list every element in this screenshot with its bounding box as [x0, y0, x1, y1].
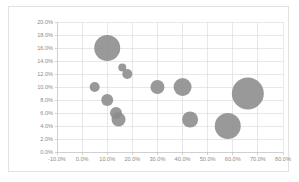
x-axis-tick-label: 30.0% [150, 156, 166, 162]
x-axis-tick-label: 50.0% [200, 156, 216, 162]
y-axis-tick-label: 0.0% [40, 149, 53, 155]
bubble-point [150, 80, 164, 94]
bubble-chart: 0.0%2.0%4.0%6.0%8.0%10.0%12.0%14.0%16.0%… [0, 0, 299, 182]
bubble-point [182, 112, 198, 128]
y-axis-tick-label: 2.0% [40, 136, 53, 142]
bubble-point [122, 69, 132, 79]
bubble-point [94, 35, 120, 61]
y-axis-tick-label: 8.0% [40, 97, 53, 103]
y-axis-tick-label: 20.0% [37, 19, 53, 25]
bubble-point [90, 82, 100, 92]
x-axis-tick-label: -10.0% [48, 156, 66, 162]
y-axis-tick-label: 18.0% [37, 32, 53, 38]
bubble-point [174, 78, 192, 96]
y-axis-tick-label: 6.0% [40, 110, 53, 116]
bubble-point [101, 94, 113, 106]
y-axis-tick-labels: 0.0%2.0%4.0%6.0%8.0%10.0%12.0%14.0%16.0%… [37, 19, 53, 155]
x-axis-tick-label: 80.0% [275, 156, 291, 162]
bubble-point [215, 113, 241, 139]
y-axis-tick-label: 12.0% [37, 71, 53, 77]
x-axis-tick-label: 70.0% [250, 156, 266, 162]
y-axis-tick-label: 4.0% [40, 123, 53, 129]
y-axis-tick-label: 10.0% [37, 84, 53, 90]
bubble-point [232, 78, 264, 110]
x-axis-tick-labels: -10.0%0.0%10.0%20.0%30.0%40.0%50.0%60.0%… [48, 156, 291, 162]
y-axis-tick-label: 14.0% [37, 58, 53, 64]
x-axis-tick-label: 60.0% [225, 156, 241, 162]
x-axis-tick-label: 20.0% [124, 156, 140, 162]
y-axis-tick-label: 16.0% [37, 45, 53, 51]
x-axis-tick-label: 0.0% [76, 156, 89, 162]
x-axis-tick-label: 40.0% [175, 156, 191, 162]
bubble-point [112, 113, 126, 127]
x-axis-tick-label: 10.0% [99, 156, 115, 162]
